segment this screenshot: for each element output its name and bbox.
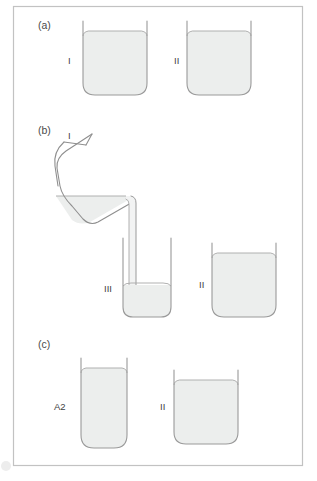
vessel-c-A2-label: A2 <box>54 401 66 412</box>
vessel-c-II-label: II <box>160 401 165 412</box>
vessel-b-III-liquid <box>123 285 171 317</box>
vessel-a-I-liquid <box>83 31 147 95</box>
figure-root: (a) I II (b) <box>0 0 317 481</box>
vessel-a-I-label: I <box>68 55 71 66</box>
vessel-c-II-liquid <box>174 380 238 444</box>
vessel-c-A2-liquid <box>81 368 127 448</box>
vessel-b-II-liquid <box>212 253 276 317</box>
scan-smudge <box>1 461 11 471</box>
vessel-b-III-label: III <box>104 283 112 294</box>
vessel-a-II-label: II <box>174 55 179 66</box>
panel-c-label: (c) <box>38 338 50 350</box>
beaker-diagram: (a) I II (b) <box>0 0 317 481</box>
vessel-b-I-label: I <box>68 130 71 141</box>
panel-a-label: (a) <box>38 19 51 31</box>
panel-b-label: (b) <box>38 124 51 136</box>
page-background <box>0 0 317 481</box>
vessel-b-II-label: II <box>199 279 204 290</box>
vessel-a-II-liquid <box>187 31 251 95</box>
